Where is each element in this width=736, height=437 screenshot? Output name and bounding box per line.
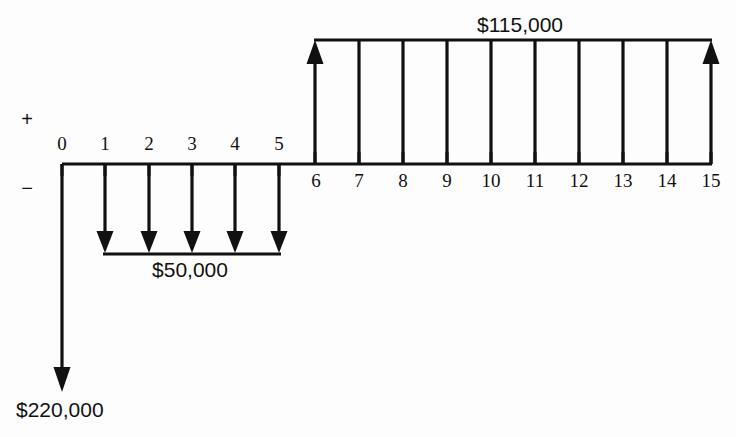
arrow-up-icon-period-6 [307, 40, 324, 64]
flow-annual-cost [97, 164, 288, 254]
arrow-down-icon-period-2 [141, 231, 158, 253]
positive-sign-label: + [21, 108, 33, 130]
period-label-0: 0 [57, 133, 67, 154]
period-label-7: 7 [354, 170, 364, 191]
arrow-down-icon-period-1 [97, 231, 114, 253]
period-label-10: 10 [482, 170, 501, 191]
period-label-12: 12 [570, 170, 589, 191]
annual-revenue-amount-label: $115,000 [477, 13, 563, 36]
flow-initial-investment [54, 164, 71, 392]
annual-cost-amount-label: $50,000 [152, 258, 228, 281]
arrow-down-icon-period-4 [227, 231, 244, 253]
arrow-down-icon-period-5 [271, 231, 288, 253]
period-label-9: 9 [442, 170, 452, 191]
period-label-3: 3 [187, 133, 197, 154]
cash-flow-diagram: + − 0 1 2 3 4 [0, 0, 736, 437]
arrow-down-icon-period-0 [54, 367, 71, 392]
arrow-up-icon-period-15 [703, 40, 720, 64]
initial-investment-amount-label: $220,000 [16, 398, 104, 421]
period-label-13: 13 [614, 170, 633, 191]
period-label-11: 11 [526, 170, 544, 191]
negative-sign-label: − [21, 177, 33, 199]
flow-annual-revenue [307, 40, 720, 164]
period-label-4: 4 [230, 133, 240, 154]
period-label-1: 1 [100, 133, 110, 154]
period-label-15: 15 [702, 170, 721, 191]
cash-flow-canvas: + − 0 1 2 3 4 [0, 0, 736, 437]
period-label-6: 6 [311, 170, 321, 191]
period-label-8: 8 [398, 170, 408, 191]
arrow-down-icon-period-3 [184, 231, 201, 253]
period-label-5: 5 [274, 133, 284, 154]
period-label-group: 0 1 2 3 4 5 6 7 8 9 10 11 12 13 14 15 [57, 133, 720, 191]
period-label-14: 14 [658, 170, 678, 191]
period-label-2: 2 [144, 133, 154, 154]
